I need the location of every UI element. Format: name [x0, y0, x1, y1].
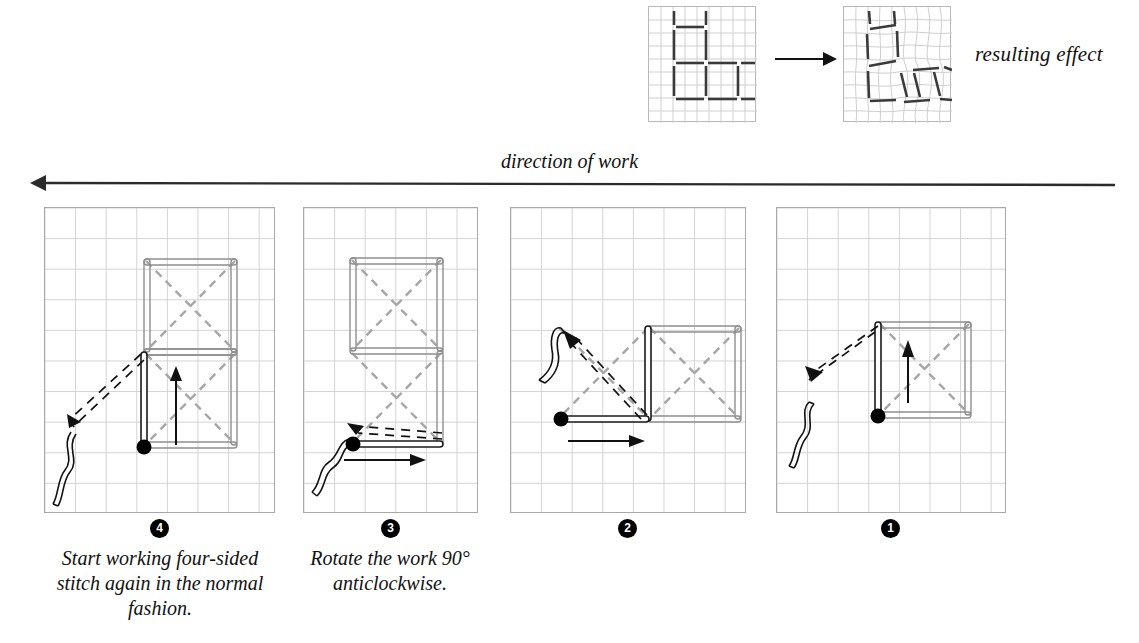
stitch-entry-dot	[137, 440, 152, 455]
needle	[53, 432, 76, 506]
transition-arrow-icon	[775, 48, 837, 70]
needle	[539, 328, 565, 383]
resulting-effect-label: resulting effect	[975, 42, 1103, 67]
step-marker-2: 2	[618, 519, 637, 538]
sample-row: resulting effect	[0, 0, 1139, 132]
direction-of-work-label: direction of work	[0, 150, 1139, 173]
distorted-sample-svg	[844, 7, 952, 123]
stitch-entry-dot	[554, 412, 569, 427]
step-panel-3	[303, 207, 478, 513]
movement-arrow	[170, 366, 182, 445]
worked-sample-grid	[648, 6, 756, 122]
step-marker-4: 4	[150, 519, 169, 538]
distorted-sample-grid	[843, 6, 951, 122]
needle	[789, 402, 814, 468]
step-caption-4: Start working four-sided stitch again in…	[50, 546, 270, 621]
step-marker-3: 3	[381, 519, 400, 538]
stitch-entry-dot	[346, 437, 361, 452]
worked-sample-svg	[649, 7, 757, 123]
step-marker-1: 1	[881, 519, 900, 538]
step-panel-1	[776, 207, 1006, 513]
stitch-entry-dot	[871, 409, 886, 424]
movement-arrow	[344, 454, 426, 466]
needle	[312, 439, 351, 496]
step-panel-4	[44, 207, 275, 513]
step-caption-3: Rotate the work 90° anticlockwise.	[300, 546, 480, 596]
direction-of-work-arrow-icon	[30, 172, 1115, 192]
movement-arrow	[568, 435, 645, 447]
step-panel-2	[510, 207, 746, 513]
